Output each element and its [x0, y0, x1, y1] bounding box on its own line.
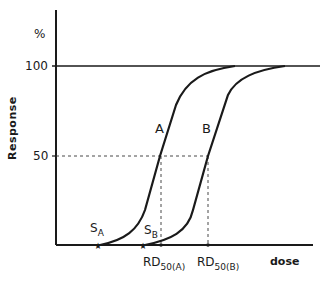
y-tick-100: 100 [25, 60, 48, 72]
threshold-s-b: SB [144, 224, 158, 236]
threshold-s-a: SA [90, 222, 104, 234]
curve-a-label: A [155, 122, 164, 135]
star-s-a-icon: ★ [94, 241, 102, 251]
y-unit-label: % [34, 28, 45, 40]
rd50-a-main: RD [143, 255, 161, 269]
s-b-sub: B [152, 230, 158, 240]
s-b-main: S [144, 223, 152, 237]
rd50-b-sub: 50(B) [215, 262, 240, 272]
rd50-b-label: RD50(B) [197, 256, 239, 268]
curve-b [145, 66, 285, 245]
curve-a [100, 66, 235, 245]
rd50-b-marker [206, 243, 210, 247]
y-tick-50: 50 [33, 150, 48, 162]
x-axis-title: dose [270, 256, 299, 267]
rd50-a-sub: 50(A) [161, 262, 186, 272]
y-axis-title: Response [6, 96, 19, 160]
s-a-sub: A [98, 228, 104, 238]
curve-b-label: B [202, 122, 211, 135]
star-s-b-icon: ★ [139, 241, 147, 251]
s-a-main: S [90, 221, 98, 235]
rd50-b-main: RD [197, 255, 215, 269]
rd50-a-label: RD50(A) [143, 256, 185, 268]
rd50-a-marker [159, 243, 163, 247]
dose-response-chart: ★ ★ [0, 0, 326, 282]
